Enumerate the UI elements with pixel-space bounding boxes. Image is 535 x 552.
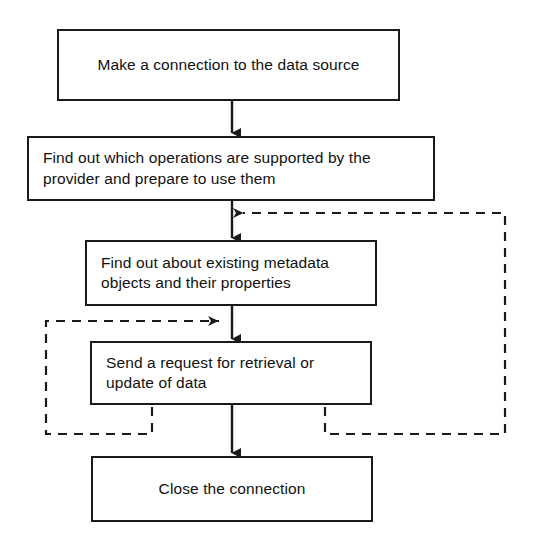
node-make-connection-label: Make a connection to the data source [87,55,369,75]
node-find-operations: Find out which operations are supported … [27,136,435,201]
node-make-connection: Make a connection to the data source [57,29,400,101]
node-close-connection-label: Close the connection [149,479,316,499]
flowchart-canvas: Make a connection to the data source Fin… [0,0,535,552]
node-close-connection: Close the connection [91,456,373,522]
node-find-metadata-label: Find out about existing metadata objects… [87,253,337,294]
node-find-metadata: Find out about existing metadata objects… [85,240,377,306]
node-find-operations-label: Find out which operations are supported … [29,148,379,189]
node-send-request-label: Send a request for retrieval or update o… [92,353,322,394]
node-send-request: Send a request for retrieval or update o… [90,341,372,405]
